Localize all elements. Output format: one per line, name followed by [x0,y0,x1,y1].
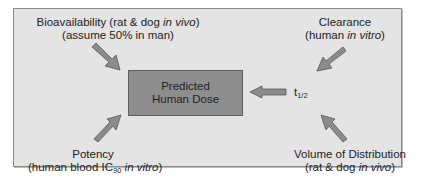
clearance-title: Clearance [300,16,390,29]
half-life-subscript: 1/2 [297,91,307,100]
arrow-clearance-icon [313,44,347,74]
bioavailability-text: Bioavailability (rat & dog [36,16,163,28]
arrow-bioavailability-icon [90,42,126,74]
clearance-text: (human [305,29,347,41]
vd-close-paren: ) [391,161,395,173]
potency-text: (human blood IC [28,161,113,173]
bioavailability-label: Bioavailability (rat & dog in vivo) (ass… [33,16,203,42]
volume-of-distribution-label: Volume of Distribution (rat & dog in viv… [290,148,410,174]
center-line1: Predicted [161,80,210,93]
half-life-label: t1/2 [294,86,308,98]
bioavailability-assumption: (assume 50% in man) [33,29,203,42]
potency-in-vitro: in vitro [125,161,159,173]
arrow-potency-icon [91,112,125,144]
potency-title: Potency [28,148,158,161]
potency-label: Potency (human blood IC90 in vitro) [28,148,158,174]
bioavailability-in-vivo: in vivo [163,16,196,28]
predicted-human-dose-box: Predicted Human Dose [128,70,243,116]
arrow-volume-of-distribution-icon [317,112,351,144]
center-line2: Human Dose [152,93,219,106]
clearance-in-vitro: in vitro [347,29,381,41]
clearance-close-paren: ) [381,29,385,41]
bioavailability-close-paren: ) [196,16,200,28]
vd-title: Volume of Distribution [290,148,410,161]
potency-close-paren: ) [158,161,162,173]
vd-in-vivo: in vivo [359,161,392,173]
vd-text: (rat & dog [305,161,359,173]
clearance-label: Clearance (human in vitro) [300,16,390,42]
arrow-half-life-icon [248,84,288,100]
